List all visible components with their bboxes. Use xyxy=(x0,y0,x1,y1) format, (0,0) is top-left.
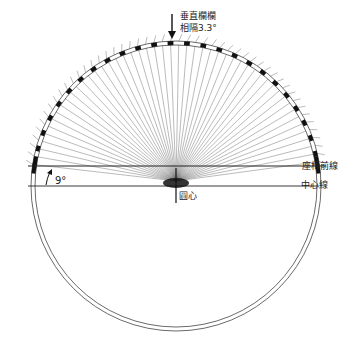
sightline-spokes xyxy=(37,45,315,181)
stadium-seating-diagram xyxy=(0,0,351,338)
angle-label: 9° xyxy=(55,175,66,186)
rail-blocks xyxy=(34,43,319,174)
center-line-label: 中心線 xyxy=(301,180,328,191)
seat-front-line-label: 座椅前線 xyxy=(302,161,338,172)
center-dense-area xyxy=(163,178,189,188)
angle-arrow-icon xyxy=(46,169,52,185)
spacing-label: 相隔3.3° xyxy=(180,23,217,34)
down-arrow-icon xyxy=(168,14,176,39)
vertical-rails-label: 垂直欄欄 xyxy=(180,11,216,22)
circle-center-label: 圓心 xyxy=(179,191,197,202)
